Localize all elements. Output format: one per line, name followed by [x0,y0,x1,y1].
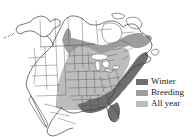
map-legend: Winter Breeding All year [136,77,196,110]
range-map-figure: Winter Breeding All year [0,0,196,137]
hudson-bay [102,23,122,43]
legend-item-winter: Winter [136,77,196,86]
aleutian-islands [4,33,14,38]
legend-label-all-year: All year [151,99,180,108]
winter-swatch [136,79,148,85]
newfoundland [151,49,159,55]
legend-label-winter: Winter [151,77,176,86]
breeding-swatch [136,90,148,96]
all-year-swatch [136,101,148,107]
legend-item-breeding: Breeding [136,88,196,97]
alaska-panhandle [47,36,53,45]
north-america-map [0,0,196,137]
legend-item-all-year: All year [136,99,196,108]
arctic-islands [112,13,125,19]
baffin-island [126,17,142,29]
legend-label-breeding: Breeding [151,88,184,97]
map-landmass-group [4,13,159,136]
alaska-outline [16,16,60,37]
lake-superior [91,54,108,60]
